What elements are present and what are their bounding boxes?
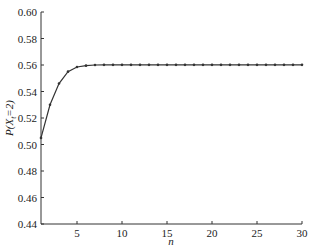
- y-tick-label: 0.50: [18, 139, 38, 151]
- data-point-marker: [247, 64, 250, 67]
- x-tick-label: 25: [252, 227, 264, 239]
- data-point-marker: [202, 64, 205, 67]
- y-tick-label: 0.48: [18, 165, 38, 177]
- data-series: [40, 64, 304, 140]
- data-point-marker: [58, 82, 61, 85]
- data-point-marker: [40, 137, 43, 140]
- data-point-marker: [229, 64, 232, 67]
- y-tick-label: 0.58: [18, 33, 38, 45]
- data-point-marker: [67, 70, 70, 73]
- y-tick-label: 0.56: [18, 59, 38, 71]
- data-point-marker: [157, 64, 160, 67]
- y-axis-label: P(Xt=2): [3, 100, 18, 137]
- data-point-marker: [85, 64, 88, 67]
- data-point-marker: [130, 64, 133, 67]
- data-point-marker: [121, 64, 124, 67]
- x-axis-label: n: [168, 235, 174, 247]
- x-tick-label: 10: [117, 227, 129, 239]
- data-point-marker: [112, 64, 115, 67]
- data-point-marker: [166, 64, 169, 67]
- data-point-marker: [238, 64, 241, 67]
- data-point-marker: [292, 64, 295, 67]
- x-tick-label: 5: [74, 227, 80, 239]
- data-point-marker: [220, 64, 223, 67]
- y-tick-label: 0.44: [18, 218, 38, 230]
- data-point-marker: [301, 64, 304, 67]
- y-axis-ticks: 0.440.460.480.500.520.540.560.580.60: [18, 6, 44, 230]
- data-point-marker: [76, 66, 79, 69]
- x-tick-label: 20: [207, 227, 219, 239]
- data-point-marker: [49, 103, 52, 106]
- y-tick-label: 0.46: [18, 192, 38, 204]
- line-chart: 0.440.460.480.500.520.540.560.580.60 510…: [0, 0, 312, 248]
- data-point-marker: [139, 64, 142, 67]
- y-tick-label: 0.54: [18, 86, 38, 98]
- data-point-marker: [274, 64, 277, 67]
- y-tick-label: 0.52: [18, 112, 37, 124]
- data-point-marker: [256, 64, 259, 67]
- data-point-marker: [103, 64, 106, 67]
- data-point-marker: [193, 64, 196, 67]
- series-line: [41, 65, 302, 138]
- data-point-marker: [175, 64, 178, 67]
- x-tick-label: 30: [297, 227, 309, 239]
- data-point-marker: [265, 64, 268, 67]
- data-point-marker: [211, 64, 214, 67]
- data-point-marker: [184, 64, 187, 67]
- data-point-marker: [283, 64, 286, 67]
- data-point-marker: [148, 64, 151, 67]
- y-tick-label: 0.60: [18, 6, 38, 18]
- data-point-marker: [94, 64, 97, 67]
